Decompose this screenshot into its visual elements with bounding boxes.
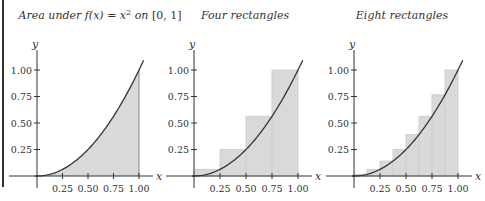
x-tick-label: 0.75: [103, 183, 124, 194]
x-axis-label: x: [315, 170, 322, 183]
riemann-rectangle: [393, 150, 406, 177]
x-axis-label: x: [475, 170, 482, 183]
x-tick-label: 0.50: [77, 183, 98, 194]
riemann-rectangle: [445, 70, 458, 176]
chart-panel-2: Four rectanglesyx0.250.500.751.000.250.5…: [166, 9, 322, 194]
y-tick-label: 0.75: [328, 91, 349, 102]
y-tick-label: 0.50: [168, 118, 189, 129]
x-tick-label: 0.75: [261, 183, 282, 194]
x-tick-label: 0.50: [395, 183, 416, 194]
chart-panel-3: Eight rectanglesyx0.250.500.751.000.250.…: [326, 9, 482, 194]
x-tick-label: 0.50: [235, 183, 256, 194]
x-tick-label: 1.00: [447, 183, 468, 194]
chart-title: Eight rectangles: [355, 9, 449, 22]
y-tick-label: 0.25: [328, 144, 349, 155]
x-tick-label: 1.00: [287, 183, 308, 194]
x-tick-label: 0.25: [52, 183, 73, 194]
y-tick-label: 0.25: [11, 144, 32, 155]
shaded-area: [37, 70, 139, 176]
chart-title: Four rectangles: [200, 9, 290, 22]
chart-panel-1: Area under f(x) = x2 on [0, 1]yx0.250.50…: [9, 8, 181, 194]
y-tick-label: 1.00: [328, 65, 349, 76]
y-tick-label: 0.50: [328, 118, 349, 129]
y-tick-label: 0.75: [11, 91, 32, 102]
riemann-rectangle: [406, 135, 419, 176]
x-tick-label: 0.25: [369, 183, 390, 194]
y-axis-label: y: [31, 38, 39, 51]
charts-canvas: Area under f(x) = x2 on [0, 1]yx0.250.50…: [0, 0, 485, 201]
y-tick-label: 1.00: [168, 65, 189, 76]
x-tick-label: 0.75: [421, 183, 442, 194]
y-tick-label: 0.25: [168, 144, 189, 155]
chart-title: Area under f(x) = x2 on [0, 1]: [18, 8, 182, 22]
y-axis-label: y: [348, 38, 356, 51]
y-tick-label: 0.50: [11, 118, 32, 129]
riemann-rectangle: [272, 70, 298, 176]
x-axis-label: x: [156, 170, 163, 183]
y-axis-label: y: [188, 38, 196, 51]
y-tick-label: 1.00: [11, 65, 32, 76]
x-tick-label: 0.25: [209, 183, 230, 194]
y-tick-label: 0.75: [168, 91, 189, 102]
x-tick-label: 1.00: [128, 183, 149, 194]
